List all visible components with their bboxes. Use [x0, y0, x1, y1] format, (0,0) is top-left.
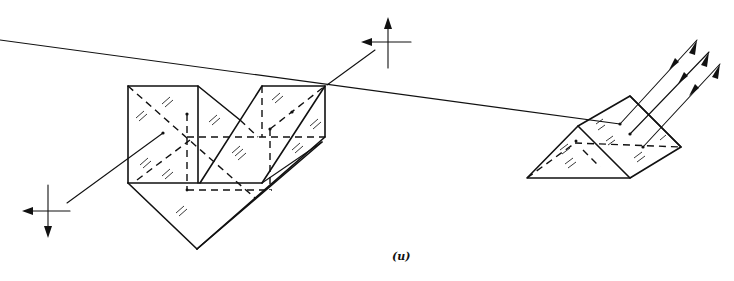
prism-assembly-left: [22, 17, 411, 249]
polarization-crosshair-in: [22, 185, 70, 238]
figure-canvas: [0, 0, 734, 281]
hidden-base-edge: [575, 143, 681, 147]
hidden-back: [583, 150, 600, 167]
arrow-left-icon: [361, 38, 372, 46]
arrow-left-icon: [22, 207, 33, 215]
hidden-diagonal-left: [128, 86, 255, 198]
right-cube-diagonal-1: [200, 86, 262, 183]
exit-ray: [327, 50, 375, 85]
v-left-edge: [128, 183, 197, 249]
hidden-ray-right: [270, 86, 325, 129]
v-inner-edge: [262, 142, 322, 183]
arrow-mid-icon: [669, 58, 679, 70]
figure-label: (u): [392, 250, 410, 263]
hidden-roof: [240, 120, 258, 137]
arrow-mid-icon: [689, 84, 699, 96]
hidden-left-edge: [527, 143, 575, 178]
roof-slope-left: [198, 86, 240, 120]
polarization-crosshair-out: [361, 17, 411, 68]
prism-outline: [527, 96, 681, 178]
incident-ray: [67, 133, 163, 203]
arrow-down-icon: [44, 226, 52, 238]
right-cube-diagonal-2: [262, 86, 325, 183]
arrow-up-icon: [384, 17, 392, 29]
arrow-mid-icon: [678, 72, 688, 84]
parallel-rays: [0, 40, 720, 149]
prism-top-edge: [630, 96, 681, 147]
